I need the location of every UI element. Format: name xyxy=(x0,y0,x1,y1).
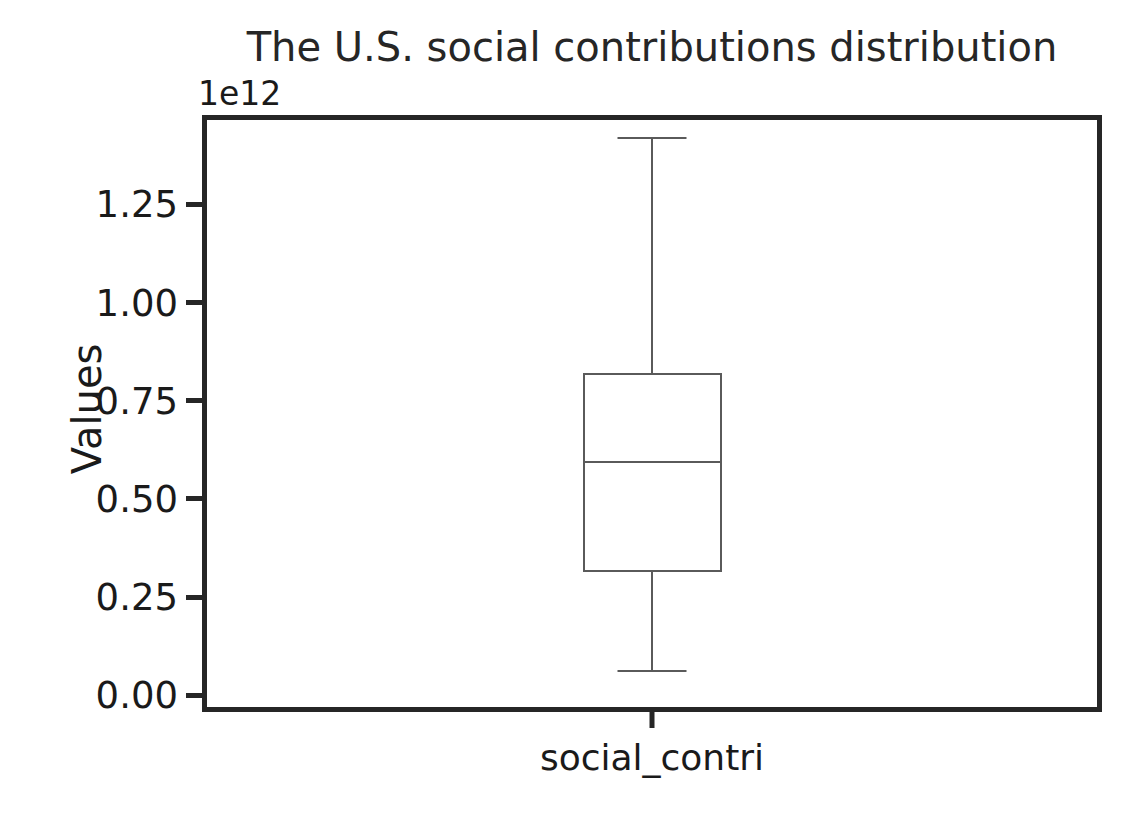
y-tick-mark xyxy=(186,496,202,501)
cap-lower xyxy=(618,670,687,672)
median-line xyxy=(583,461,722,463)
boxplot-figure: The U.S. social contributions distributi… xyxy=(0,0,1135,817)
x-tick-label-social_contri: social_contri xyxy=(540,740,764,776)
y-axis-offset-label: 1e12 xyxy=(198,76,281,112)
y-tick-mark xyxy=(186,595,202,600)
y-tick-label: 1.25 xyxy=(96,186,178,223)
box-social_contri xyxy=(583,373,722,573)
whisker-upper xyxy=(651,138,653,373)
cap-upper xyxy=(618,137,687,139)
x-tick-mark xyxy=(650,712,655,728)
plot-area: 1.251.000.750.500.250.00 social_contri xyxy=(202,115,1102,712)
y-tick-mark xyxy=(186,398,202,403)
y-tick-label: 0.75 xyxy=(96,382,178,419)
y-tick-label: 1.00 xyxy=(96,284,178,321)
whisker-lower xyxy=(651,572,653,671)
y-tick-label: 0.00 xyxy=(96,677,178,714)
chart-title: The U.S. social contributions distributi… xyxy=(202,24,1102,70)
y-tick-label: 0.50 xyxy=(96,480,178,517)
y-tick-mark xyxy=(186,693,202,698)
y-tick-label: 0.25 xyxy=(96,579,178,616)
y-tick-mark xyxy=(186,300,202,305)
y-tick-mark xyxy=(186,202,202,207)
